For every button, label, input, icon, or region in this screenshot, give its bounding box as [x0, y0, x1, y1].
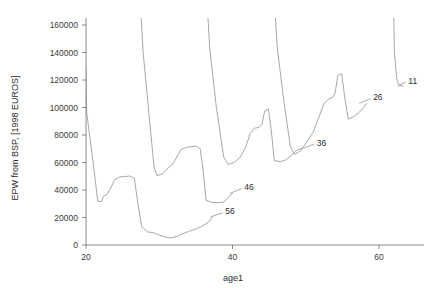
y-tick-label: 120000 [50, 75, 79, 85]
series-layer [86, 9, 403, 238]
series-leader-56 [211, 213, 223, 217]
line-chart: 0200004000060000800001000001200001400001… [0, 0, 433, 288]
x-tick-label: 20 [81, 252, 91, 262]
y-tick-label: 140000 [50, 48, 79, 58]
y-tick-label: 20000 [54, 213, 78, 223]
y-tick-label: 160000 [50, 20, 79, 30]
x-tick-label: 60 [374, 252, 384, 262]
y-tick-label: 60000 [54, 158, 78, 168]
series-leader-46 [230, 189, 242, 194]
y-axis: 0200004000060000800001000001200001400001… [50, 18, 86, 250]
x-axis: 204060 [81, 245, 424, 262]
series-line-26 [275, 10, 367, 154]
y-tick-label: 40000 [54, 185, 78, 195]
series-label-46: 46 [244, 182, 254, 192]
series-label-36: 36 [317, 138, 327, 148]
series-line-56 [86, 66, 213, 238]
series-leader-26 [359, 99, 370, 104]
y-tick-label: 80000 [54, 130, 78, 140]
series-label-26: 26 [373, 92, 383, 102]
series-labels-layer: 5646362611 [211, 76, 418, 217]
series-label-56: 56 [225, 206, 235, 216]
series-line-36 [208, 11, 302, 164]
series-label-11: 11 [408, 76, 417, 86]
y-tick-label: 100000 [50, 103, 79, 113]
x-tick-label: 40 [228, 252, 238, 262]
series-line-11 [394, 9, 404, 87]
series-line-46 [141, 14, 233, 203]
x-axis-title: age1 [223, 273, 243, 283]
chart-container: 0200004000060000800001000001200001400001… [0, 0, 433, 288]
y-tick-label: 0 [73, 240, 78, 250]
y-axis-title: EPW from BSP, [1998 EUROS] [10, 76, 20, 201]
